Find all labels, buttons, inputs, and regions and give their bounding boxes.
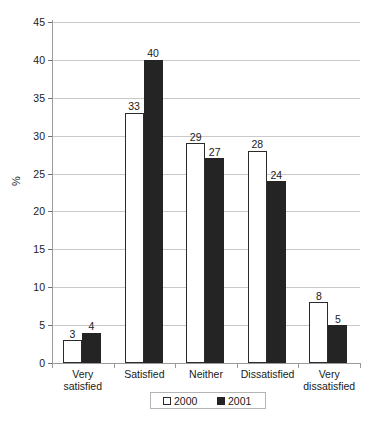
bar-value-label: 24 [270,170,282,181]
bar-value-label: 4 [89,321,95,332]
plot-area: 0510152025303540453433402927282485 [52,22,360,363]
bar-chart: % 0510152025303540453433402927282485 Ver… [0,0,379,423]
y-axis-line [52,20,53,365]
bar-2001-1: 4 [82,333,101,363]
y-tick-label: 25 [33,168,45,179]
x-axis-label-2: Satisfied [114,368,176,380]
bar-group: 34 [52,22,114,363]
y-tick-label: 10 [33,282,45,293]
x-axis-label-line: Neither [175,368,237,380]
bar-2000-2: 33 [125,113,144,363]
legend-swatch-2001 [217,397,225,405]
bar-2001-3: 27 [205,158,224,363]
y-tick-label: 0 [39,358,45,369]
y-axis-title: % [10,176,22,186]
bar-value-label: 5 [335,314,341,325]
legend-item-2001: 2001 [217,395,251,407]
x-tick-mark [360,363,361,368]
x-axis-label-line: Satisfied [114,368,176,380]
y-tick-label: 15 [33,244,45,255]
y-tick-label: 45 [33,17,45,28]
y-tick-label: 5 [39,320,45,331]
bar-2001-5: 5 [328,325,347,363]
legend-swatch-2000 [163,397,171,405]
bar-2001-2: 40 [144,60,163,363]
bar-value-label: 3 [70,329,76,340]
y-tick-label: 40 [33,55,45,66]
x-axis-line [52,363,361,364]
y-tick-label: 20 [33,206,45,217]
legend-label-2000: 2000 [174,395,197,407]
bar-group: 3340 [114,22,176,363]
x-axis-label-line: Very [298,368,360,380]
bar-value-label: 29 [190,132,202,143]
bar-2000-1: 3 [63,340,82,363]
y-tick-label: 30 [33,130,45,141]
legend: 2000 2001 [150,392,266,409]
bar-value-label: 28 [251,139,263,150]
bar-2000-4: 28 [248,151,267,363]
x-axis-label-1: Very satisfied [52,368,114,392]
bar-2000-3: 29 [186,143,205,363]
y-tick-label: 35 [33,93,45,104]
bar-2000-5: 8 [309,302,328,363]
bar-value-label: 40 [147,48,159,59]
bar-value-label: 8 [316,291,322,302]
x-axis-label-line: Dissatisfied [237,368,299,380]
x-axis-label-3: Neither [175,368,237,380]
bar-2001-4: 24 [267,181,286,363]
x-axis-label-line: dissatisfied [298,380,360,392]
bar-group: 85 [298,22,360,363]
x-axis-label-4: Dissatisfied [237,368,299,380]
bar-group: 2927 [175,22,237,363]
bar-value-label: 33 [128,101,140,112]
bar-group: 2824 [237,22,299,363]
x-axis-label-5: Verydissatisfied [298,368,360,392]
legend-item-2000: 2000 [163,395,197,407]
x-axis-label-line: Very satisfied [52,368,114,392]
bar-value-label: 27 [209,147,221,158]
legend-label-2001: 2001 [228,395,251,407]
